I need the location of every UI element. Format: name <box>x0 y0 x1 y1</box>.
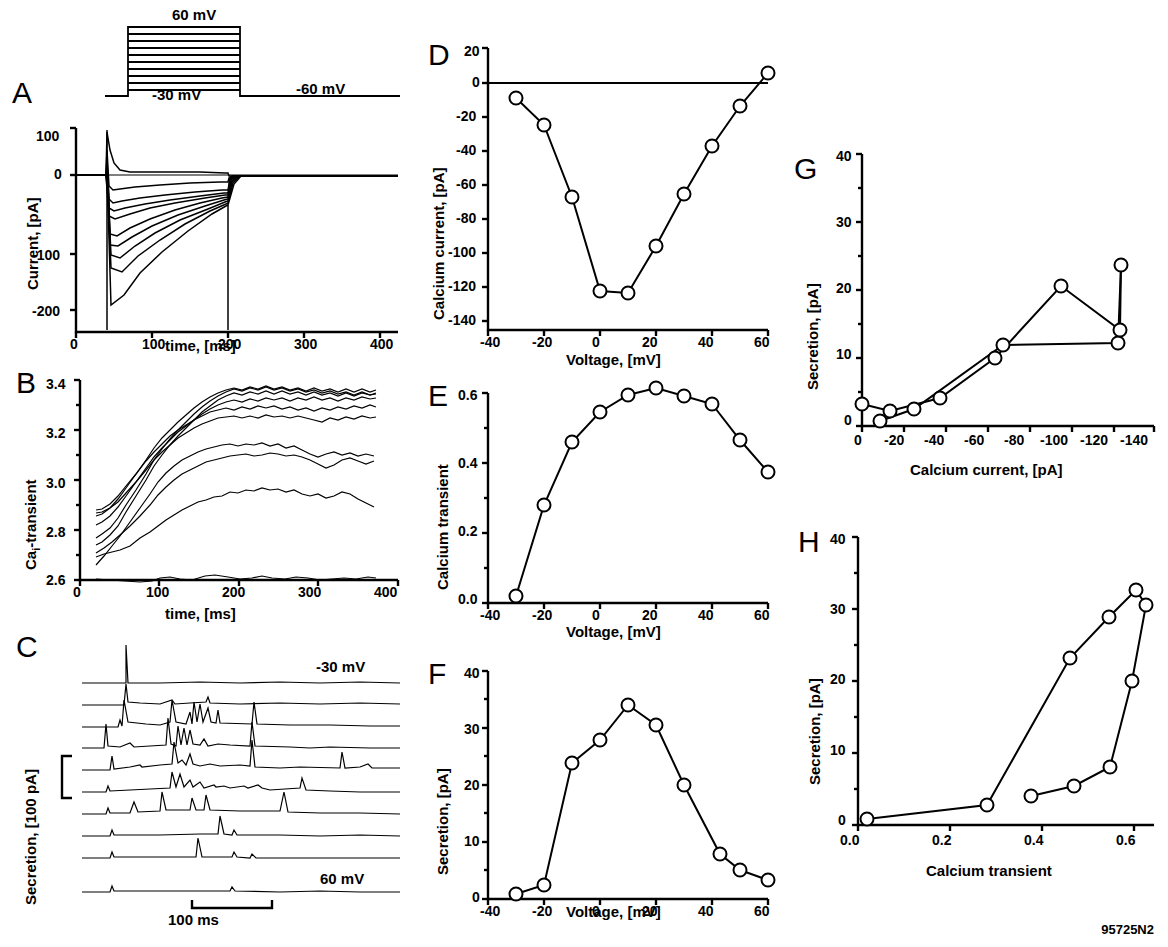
panel-g-xlabel: Calcium current, [pA] <box>910 461 1063 478</box>
panel-b-plot <box>0 360 420 600</box>
panel-g-plot <box>780 140 1168 450</box>
panel-b: B Cai-transient time, [ms] 3.4 3.2 3.0 2… <box>0 360 420 630</box>
panel-e: E Calcium transient Voltage, [mV] 0.6 0.… <box>420 375 780 640</box>
panel-a-plot <box>0 0 420 340</box>
panel-a: 60 mV -30 mV -60 mV A Current, [pA] time… <box>0 0 420 360</box>
panel-c-plot <box>0 630 420 930</box>
panel-h-xlabel: Calcium transient <box>926 862 1052 879</box>
panel-f: F Secretion, [pA] Voltage, [mV] 40 30 20… <box>420 645 780 945</box>
panel-f-plot <box>420 645 780 915</box>
panel-b-xlabel: time, [ms] <box>165 605 236 622</box>
panel-d: D Calcium current, [pA] Voltage, [mV] 20… <box>420 20 780 390</box>
panel-h: H Secretion, [pA] Calcium transient 40 3… <box>780 505 1168 905</box>
panel-d-plot <box>420 20 780 360</box>
panel-h-plot <box>780 505 1168 850</box>
panel-g: G Secretion, [pA] Calcium current, [pA] … <box>780 140 1168 500</box>
panel-e-xlabel: Voltage, [mV] <box>566 623 661 640</box>
figure-corner-label: 95725N2 <box>1101 922 1154 937</box>
panel-e-plot <box>420 375 780 625</box>
panel-c: C Secretion, [100 pA] -30 mV 60 mV 100 m… <box>0 630 420 947</box>
